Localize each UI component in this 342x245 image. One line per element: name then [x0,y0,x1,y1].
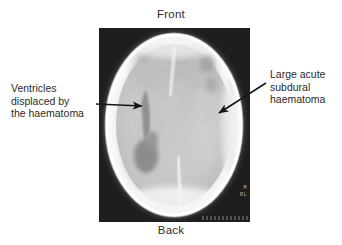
ct-orientation-marker-m: M [243,185,247,191]
annotation-line: subdural [270,81,325,94]
annotation-line: Ventricles [11,82,84,95]
front-orientation-label: Front [0,8,342,21]
ct-scan-graphic [99,28,250,222]
ct-scan-image: M RL [99,28,250,222]
back-orientation-label: Back [0,224,342,237]
ventricles-annotation-text: Ventricles displaced by the haematoma [11,82,84,120]
ct-footer-annotation-strip [202,216,248,220]
ct-orientation-marker-rl: RL [240,192,247,198]
ct-figure: Front [0,0,342,245]
annotation-line: Large acute [270,68,325,81]
annotation-line: displaced by [11,95,84,108]
annotation-line: the haematoma [11,107,84,120]
haematoma-annotation-text: Large acute subdural haematoma [270,68,325,106]
annotation-line: haematoma [270,93,325,106]
